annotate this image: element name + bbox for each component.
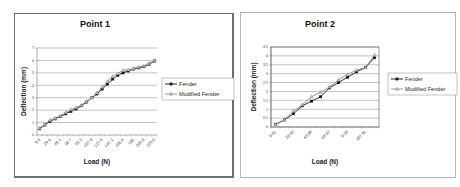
y-tick-label: 4.5 xyxy=(263,45,268,49)
chart-2: Point 200.511.522.533.544.59.8129.4349.0… xyxy=(250,19,457,166)
x-tick-label: 205.9 xyxy=(135,137,146,148)
legend-label: Fender xyxy=(405,76,423,82)
y-tick-label: 1 xyxy=(32,121,34,125)
square-marker xyxy=(337,81,340,84)
y-tick-label: 5 xyxy=(32,71,34,75)
x-tick-label: 225.6 xyxy=(145,137,156,148)
y-axis-title: Deflection (mm) xyxy=(250,62,258,111)
y-tick-label: 0.5 xyxy=(263,116,268,120)
square-marker xyxy=(373,56,376,59)
charts-canvas: Point 1012345679.829.449.168.788.3107.91… xyxy=(0,0,460,187)
x-tick-label: 29.43 xyxy=(284,129,295,140)
x-tick-label: 107.9 xyxy=(83,137,94,148)
chart-title: Point 2 xyxy=(305,19,335,29)
y-tick-label: 1.5 xyxy=(263,99,268,103)
x-tick-label: 147.2 xyxy=(103,137,114,148)
x-tick-label: 9.8 xyxy=(34,137,42,145)
x-tick-label: 166.8 xyxy=(114,137,125,148)
square-marker xyxy=(111,78,114,81)
y-tick-label: 2 xyxy=(266,90,268,94)
y-tick-label: 2.5 xyxy=(263,81,268,85)
y-tick-label: 3.5 xyxy=(263,63,268,67)
chart-1: Point 1012345679.829.449.168.788.3107.91… xyxy=(20,19,234,166)
x-tick-label: 49.1 xyxy=(53,137,63,147)
x-tick-label: 9.81 xyxy=(268,129,278,139)
square-marker xyxy=(346,76,349,79)
square-marker xyxy=(396,78,399,81)
x-tick-label: 127.5 xyxy=(93,137,104,148)
y-tick-label: 3 xyxy=(32,96,34,100)
y-tick-label: 0 xyxy=(266,125,268,129)
x-tick-label: 29.4 xyxy=(42,137,52,147)
x-tick-label: 68.7 xyxy=(63,137,73,147)
y-tick-label: 3 xyxy=(266,72,268,76)
chart-title: Point 1 xyxy=(80,19,110,29)
x-axis-title: Load (N) xyxy=(312,158,338,166)
legend-label: Modified Fender xyxy=(179,91,220,97)
x-tick-label: 8.29 xyxy=(340,129,350,139)
y-tick-label: 4 xyxy=(266,54,268,58)
square-marker xyxy=(170,83,173,86)
square-marker xyxy=(122,71,125,74)
y-tick-label: 2 xyxy=(32,108,34,112)
square-marker xyxy=(106,83,109,86)
legend: FenderModified Fender xyxy=(388,73,457,95)
y-tick-label: 4 xyxy=(32,84,34,88)
x-tick-label: 107.91 xyxy=(355,129,368,142)
x-tick-label: 68.67 xyxy=(320,129,331,140)
y-tick-label: 1 xyxy=(266,108,268,112)
x-axis-title: Load (N) xyxy=(84,158,110,166)
x-tick-label: 49.05 xyxy=(302,129,313,140)
plot-area xyxy=(271,47,379,127)
legend: FenderModified Fender xyxy=(162,78,234,100)
square-marker xyxy=(310,100,313,103)
square-marker xyxy=(292,112,295,115)
y-axis-title: Deflection (mm) xyxy=(20,67,28,116)
y-tick-label: 0 xyxy=(32,133,34,137)
legend-label: Fender xyxy=(179,81,197,87)
y-tick-label: 7 xyxy=(32,46,34,50)
legend-label: Modified Fender xyxy=(405,86,446,92)
square-marker xyxy=(319,95,322,98)
y-tick-label: 6 xyxy=(32,59,34,63)
